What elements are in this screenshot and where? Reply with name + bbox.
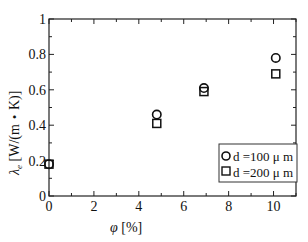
legend: d =100 μ m d =200 μ m bbox=[219, 144, 297, 182]
legend-label-100: d =100 μ m bbox=[233, 149, 293, 164]
svg-text:0.2: 0.2 bbox=[29, 154, 47, 169]
svg-text:0: 0 bbox=[46, 199, 53, 214]
svg-text:0.4: 0.4 bbox=[29, 118, 47, 133]
svg-text:0.8: 0.8 bbox=[29, 47, 47, 62]
svg-text:6: 6 bbox=[180, 199, 187, 214]
x-axis-label: φ [%] bbox=[110, 220, 142, 235]
svg-text:0.6: 0.6 bbox=[29, 83, 47, 98]
data-point-square bbox=[272, 70, 280, 78]
data-point-square bbox=[153, 119, 161, 127]
axis-ticks: 024681000.20.40.60.81 bbox=[29, 12, 297, 214]
svg-text:10: 10 bbox=[267, 199, 281, 214]
y-axis-label: λe [W/(m・K)] bbox=[7, 91, 24, 176]
svg-text:8: 8 bbox=[225, 199, 232, 214]
svg-text:0: 0 bbox=[39, 189, 46, 204]
legend-label-200: d =200 μ m bbox=[233, 165, 293, 180]
data-point-circle bbox=[272, 54, 280, 62]
svg-text:4: 4 bbox=[135, 199, 142, 214]
scatter-chart: 024681000.20.40.60.81 d =100 μ m d =200 … bbox=[0, 0, 308, 242]
svg-text:2: 2 bbox=[90, 199, 97, 214]
data-point-circle bbox=[153, 110, 161, 118]
svg-text:1: 1 bbox=[39, 12, 46, 27]
